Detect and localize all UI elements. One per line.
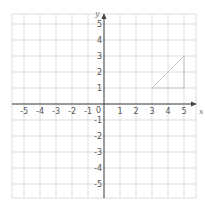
- x-tick-label: 3: [149, 107, 154, 116]
- x-tick-label: -4: [36, 107, 44, 116]
- y-tick-label: 5: [97, 20, 102, 29]
- x-tick-label: 4: [165, 107, 170, 116]
- y-tick-label: -5: [94, 180, 102, 189]
- x-tick-label: 5: [181, 107, 186, 116]
- y-tick-label: -2: [94, 132, 102, 141]
- y-tick-label: 2: [97, 68, 102, 77]
- y-tick-label: 1: [97, 84, 102, 93]
- origin-label: 0: [96, 106, 101, 115]
- x-tick-label: -2: [68, 107, 76, 116]
- x-tick-label: 1: [117, 107, 122, 116]
- x-axis-label: x: [199, 107, 204, 116]
- y-tick-label: 4: [97, 36, 102, 45]
- y-axis-label: y: [94, 9, 100, 18]
- y-tick-label: -4: [94, 164, 102, 173]
- coordinate-grid: xy-5-4-3-2-11234554321-1-2-3-4-50: [0, 0, 205, 214]
- y-tick-label: -3: [94, 148, 102, 157]
- x-tick-label: 2: [133, 107, 138, 116]
- y-tick-label: -1: [94, 116, 102, 125]
- x-tick-label: -5: [20, 107, 28, 116]
- x-tick-label: -1: [84, 107, 92, 116]
- y-tick-label: 3: [97, 52, 102, 61]
- x-tick-label: -3: [52, 107, 60, 116]
